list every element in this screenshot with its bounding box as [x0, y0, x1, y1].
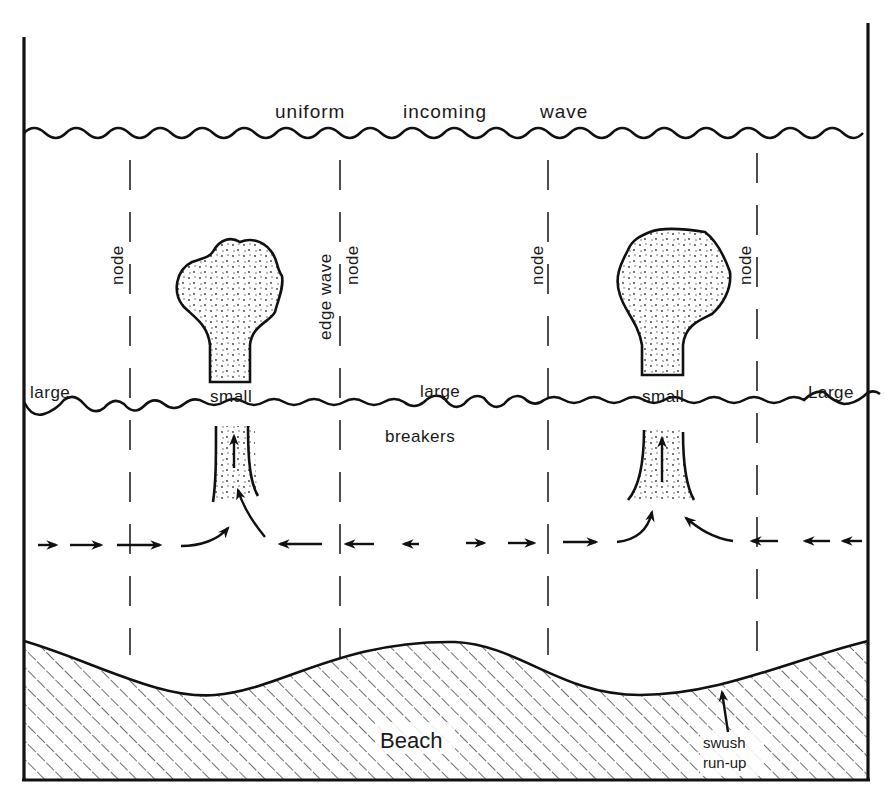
rip-current-head-2 [618, 229, 731, 375]
node-label-1: node [108, 245, 127, 285]
rip-neck-1 [213, 426, 258, 502]
node-label-4: node [736, 245, 755, 285]
breaker-large-right: Large [808, 383, 854, 402]
title-word-uniform: uniform [275, 101, 345, 122]
title-word-wave: wave [539, 101, 588, 122]
incoming-wave-line [24, 128, 863, 138]
title-word-incoming: incoming [403, 101, 487, 122]
breaker-small-2: small [642, 387, 684, 406]
arrow-curve-to-rip-2 [686, 518, 733, 541]
rip-neck-2 [628, 430, 694, 500]
breaker-large-left: large [30, 383, 70, 402]
beach-label: Beach [380, 728, 442, 753]
breaker-large-middle: large [420, 382, 460, 401]
arrow-curve-to-rip-2 [617, 512, 652, 542]
incoming-wave-title: uniform incoming wave [275, 101, 588, 122]
edge-wave-rip-current-diagram: uniform incoming wave node edge wave nod… [0, 0, 886, 798]
longshore-current-arrows [38, 490, 862, 546]
breaker-small-1: small [210, 387, 252, 406]
swash-label-line-2: run-up [703, 754, 746, 771]
node-label-3: node [528, 245, 547, 285]
node-label-2: node [343, 245, 362, 285]
breaker-labels: large small large small Large breakers [30, 382, 854, 446]
edge-wave-label: edge wave [316, 253, 335, 340]
rip-current-head-1 [177, 239, 283, 382]
arrow-curve-to-rip-1 [181, 528, 228, 546]
breakers-label: breakers [385, 427, 455, 446]
swash-label-line-1: swush [703, 734, 746, 751]
